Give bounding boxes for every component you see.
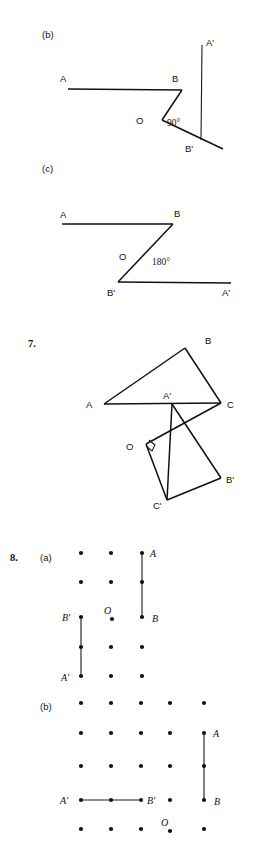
grid-dot [168, 798, 172, 802]
grid-dot [79, 798, 83, 802]
grid-dot [109, 764, 113, 768]
grid-dot [79, 701, 83, 705]
grid-dot [139, 701, 143, 705]
worksheet-page: (b) A B O A' B' 90° (c) A B O B' A' 180°… [0, 0, 261, 858]
grid-dot [168, 829, 172, 833]
grid-dot [109, 798, 113, 802]
grid-dot [79, 827, 83, 831]
grid-dot [168, 764, 172, 768]
point-label-A-prime: A' [59, 795, 69, 806]
grid-dot [202, 701, 206, 705]
point-label-B: B [214, 796, 220, 807]
grid-dot [139, 798, 143, 802]
point-label-B-prime: B' [147, 795, 156, 806]
grid-dot [202, 764, 206, 768]
grid-dot [109, 827, 113, 831]
grid-dot [139, 827, 143, 831]
grid-dot [79, 731, 83, 735]
grid-dot [202, 827, 206, 831]
grid-dot [168, 731, 172, 735]
grid-dot [79, 764, 83, 768]
grid-dot [109, 701, 113, 705]
figure-8b: (b) [0, 0, 261, 858]
grid-dot [139, 764, 143, 768]
grid-dot [109, 731, 113, 735]
point-label-O: O [161, 817, 168, 828]
part-label-b: (b) [40, 701, 52, 712]
grid-dot [139, 731, 143, 735]
grid-dot [202, 798, 206, 802]
dot-grid [79, 701, 206, 833]
grid-dot [168, 701, 172, 705]
grid-dot [202, 731, 206, 735]
point-label-A: A [212, 728, 220, 739]
